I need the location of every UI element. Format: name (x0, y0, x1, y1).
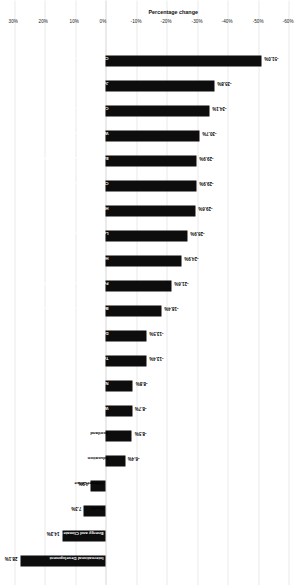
bar-value-label: -8.7% (135, 404, 147, 409)
y-axis-tick-label: -20% (160, 18, 171, 23)
bar (105, 305, 161, 317)
bar-category-label: CLG Communities (70, 180, 107, 184)
bar-category-label: Foreign and Commonwealth Office (37, 280, 108, 284)
gridline (14, 0, 15, 585)
bar-category-label: N. Ireland (88, 380, 108, 384)
bar (105, 180, 196, 192)
gridline (75, 0, 76, 585)
bar-value-label: 14.3% (47, 529, 60, 534)
bar-value-label: -51.0% (263, 54, 277, 59)
y-axis-tick-label: 0% (99, 18, 106, 23)
bar-value-label: -13.4% (149, 354, 163, 359)
y-axis-title: Percentage change (148, 8, 197, 14)
bar-value-label: -13.5% (149, 329, 163, 334)
bar-category-label: Transport (88, 355, 108, 359)
bar (105, 280, 171, 292)
bar (105, 355, 146, 367)
bar-category-label: Scotland (90, 430, 108, 434)
bar (105, 405, 131, 417)
bar-category-label: Business, Innovation and Skills (43, 305, 107, 309)
bar-category-label: Culture, Media and Sport (57, 105, 108, 109)
y-axis-tick-label: -50% (252, 18, 263, 23)
bar-category-label: International Development (49, 555, 103, 559)
chart-canvas: 30%20%10%0%-10%-20%-30%-40%-50%-60%Perce… (0, 0, 298, 585)
bar-category-label: HM Treasury (82, 205, 108, 209)
y-axis-tick-label: -40% (221, 18, 232, 23)
bar-category-label: Education (87, 455, 108, 459)
bar-chart-plot-area: 30%20%10%0%-10%-20%-30%-40%-50%-60%Perce… (0, 0, 298, 585)
bar-value-label: 28.1% (5, 554, 18, 559)
bar-category-label: CLG Local Government (60, 55, 108, 59)
bar-category-label: Wales (96, 405, 108, 409)
bar (105, 155, 196, 167)
bar (105, 330, 146, 342)
gridline (44, 0, 45, 585)
bar-value-label: -8.8% (135, 379, 147, 384)
gridline (258, 0, 259, 585)
y-axis-tick-label: 20% (38, 18, 48, 23)
bar-value-label: -30.7% (201, 129, 215, 134)
y-axis-tick-label: 30% (8, 18, 18, 23)
bar (105, 255, 181, 267)
y-axis-tick-label: -10% (130, 18, 141, 23)
bar-value-label: -26.9% (190, 229, 204, 234)
bar (105, 230, 187, 242)
chart-rotation-wrapper: 30%20%10%0%-10%-20%-30%-40%-50%-60%Perce… (0, 0, 298, 585)
bar-category-label: Environment, Food and Rural Affairs (33, 155, 108, 159)
y-axis-tick-label: -60% (282, 18, 293, 23)
bar (105, 80, 214, 92)
y-axis-tick-label: -30% (191, 18, 202, 23)
bar-value-label: -29.9% (199, 179, 213, 184)
bar-category-label: Home Office (83, 255, 108, 259)
bar-category-label: Defence (91, 330, 108, 334)
bar-value-label: -29.6% (198, 204, 212, 209)
bar (105, 205, 195, 217)
bar-value-label: -6.4% (128, 454, 140, 459)
bar (105, 380, 132, 392)
bar-value-label: 4.9% (78, 479, 88, 484)
bar (105, 105, 209, 117)
y-axis-tick-label: 10% (69, 18, 79, 23)
bar-value-label: -34.1% (212, 104, 226, 109)
bar-value-label: -18.4% (164, 304, 178, 309)
bar-category-label: Health (90, 505, 103, 509)
gridline (227, 0, 228, 585)
bar (105, 130, 198, 142)
bar-value-label: -24.9% (184, 254, 198, 259)
bar-value-label: -35.8% (217, 79, 231, 84)
bar-value-label: -29.9% (199, 154, 213, 159)
bar (105, 430, 131, 442)
gridline (288, 0, 289, 585)
bar-category-label: Law Officers' Department (56, 230, 108, 234)
bar-category-label: Justice (93, 80, 108, 84)
bar-value-label: 7.3% (70, 504, 80, 509)
bar-value-label: -8.5% (134, 429, 146, 434)
bar (105, 55, 260, 67)
bar-value-label: -21.6% (174, 279, 188, 284)
bar-category-label: Work and Pensions (68, 130, 108, 134)
